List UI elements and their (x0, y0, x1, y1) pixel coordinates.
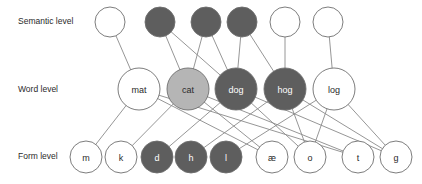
diagram-canvas: matcatdoghoglogmkdhlæotg Semantic levelW… (0, 0, 422, 184)
node-form-h[interactable]: h (175, 141, 207, 173)
node-label-ae: æ (268, 153, 276, 163)
node-circle-sem5[interactable] (270, 7, 300, 37)
node-form-o[interactable]: o (294, 141, 326, 173)
node-label-log: log (328, 85, 340, 95)
node-form-t[interactable]: t (342, 141, 374, 173)
node-form-ae[interactable]: æ (256, 141, 288, 173)
node-semantic-sem6[interactable] (313, 7, 343, 37)
node-layer: matcatdoghoglogmkdhlæotg (70, 7, 412, 173)
node-form-g[interactable]: g (380, 141, 412, 173)
node-circle-sem3[interactable] (191, 7, 221, 37)
edge-sem6-to-log (329, 36, 332, 68)
node-label-mat: mat (131, 85, 147, 95)
node-label-h: h (188, 153, 193, 163)
node-semantic-sem5[interactable] (270, 7, 300, 37)
node-form-k[interactable]: k (105, 141, 137, 173)
edge-mat-to-m (96, 105, 127, 145)
node-label-o: o (307, 153, 312, 163)
node-label-m: m (82, 153, 90, 163)
node-label-cat: cat (182, 85, 195, 95)
form-level-label: Form level (18, 151, 58, 161)
edge-sem2-to-cat (166, 35, 181, 70)
node-form-d[interactable]: d (141, 141, 173, 173)
level-label-layer: Semantic levelWord levelForm level (18, 16, 73, 161)
semantic-level-label: Semantic level (18, 16, 73, 26)
edge-sem1-to-mat (116, 35, 131, 70)
node-word-hog[interactable]: hog (264, 68, 306, 110)
node-word-cat[interactable]: cat (167, 68, 209, 110)
node-word-dog[interactable]: dog (215, 68, 257, 110)
node-semantic-sem2[interactable] (145, 7, 175, 37)
edge-sem4-to-dog (238, 36, 241, 68)
node-label-k: k (119, 153, 124, 163)
node-circle-sem4[interactable] (227, 7, 257, 37)
node-label-l: l (225, 153, 227, 163)
node-circle-sem1[interactable] (95, 7, 125, 37)
node-label-d: d (154, 153, 159, 163)
node-word-log[interactable]: log (313, 68, 355, 110)
node-word-mat[interactable]: mat (118, 68, 160, 110)
word-level-label: Word level (18, 84, 58, 94)
node-circle-sem6[interactable] (313, 7, 343, 37)
node-label-hog: hog (277, 85, 292, 95)
network-diagram: matcatdoghoglogmkdhlæotg Semantic levelW… (0, 0, 422, 184)
node-circle-sem2[interactable] (145, 7, 175, 37)
edge-sem3-to-dog (212, 35, 228, 70)
node-semantic-sem3[interactable] (191, 7, 221, 37)
node-form-m[interactable]: m (70, 141, 102, 173)
node-label-dog: dog (228, 85, 243, 95)
node-semantic-sem4[interactable] (227, 7, 257, 37)
node-label-g: g (393, 153, 398, 163)
node-form-l[interactable]: l (210, 141, 242, 173)
node-semantic-sem1[interactable] (95, 7, 125, 37)
edge-sem4-to-hog (250, 34, 274, 72)
edge-log-to-o (315, 108, 327, 142)
